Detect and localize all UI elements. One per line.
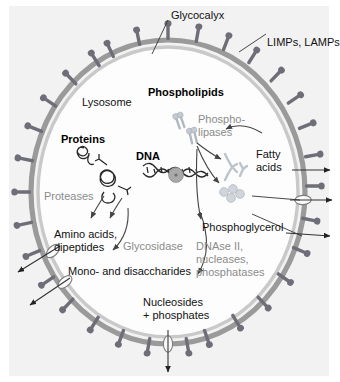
label-phospholipids: Phospholipids xyxy=(148,86,224,98)
label-amino-acids-line1: Amino acids, xyxy=(54,228,117,240)
label-proteases: Proteases xyxy=(44,190,94,202)
label-proteins: Proteins xyxy=(61,133,105,145)
label-dnase-line1: DNAse II, xyxy=(196,240,243,252)
label-limps-lamps: LIMPs, LAMPs xyxy=(267,36,340,48)
label-phospholipases-line1: Phospho- xyxy=(198,113,245,125)
label-amino-acids-line2: dipeptides xyxy=(54,241,104,253)
label-fatty-acids-line1: Fatty xyxy=(256,148,280,160)
label-dna: DNA xyxy=(136,150,160,162)
label-dnase-line2: nucleases, xyxy=(196,253,249,265)
label-nucleosides-line2: + phosphates xyxy=(143,309,209,321)
label-dnase-line3: phosphatases xyxy=(196,266,265,278)
label-phospholipases-line2: lipases xyxy=(198,126,232,138)
label-fatty-acids-line2: acids xyxy=(256,161,282,173)
label-glycocalyx: Glycocalyx xyxy=(171,9,224,21)
label-phosphoglycerol: Phosphoglycerol xyxy=(202,221,283,233)
label-glycosidase: Glycosidase xyxy=(123,240,183,252)
label-lysosome: Lysosome xyxy=(82,96,132,108)
label-mono-disaccharides: Mono- and disaccharides xyxy=(68,265,191,277)
label-nucleosides-line1: Nucleosides xyxy=(143,296,203,308)
